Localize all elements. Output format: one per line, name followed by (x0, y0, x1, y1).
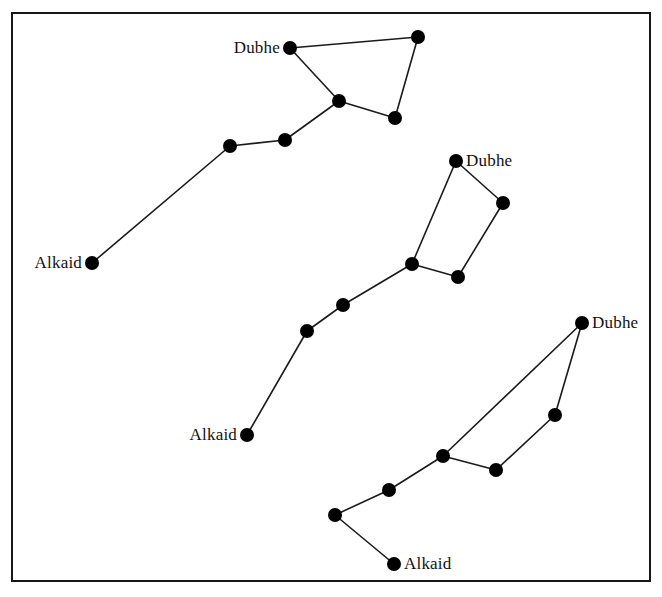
star-dot[interactable] (436, 449, 450, 463)
star-dot[interactable] (240, 428, 254, 442)
star-dot[interactable] (328, 508, 342, 522)
constellation-line (92, 146, 230, 263)
star-label-alkaid: Alkaid (35, 254, 82, 271)
star-dot[interactable] (278, 133, 292, 147)
star-dot[interactable] (575, 316, 589, 330)
star-dot[interactable] (382, 483, 396, 497)
constellation-line (285, 101, 339, 140)
constellation-line (290, 48, 339, 101)
star-dot[interactable] (451, 270, 465, 284)
star-dot[interactable] (223, 139, 237, 153)
constellation-line (458, 203, 503, 277)
star-label-dubhe: Dubhe (234, 39, 280, 56)
constellation-lines-layer (92, 37, 582, 564)
starfield-canvas (0, 0, 662, 597)
star-dot[interactable] (411, 30, 425, 44)
constellation-line (335, 490, 389, 515)
constellation-line (247, 331, 307, 435)
constellation-line (230, 140, 285, 146)
star-dot[interactable] (336, 298, 350, 312)
star-dot[interactable] (85, 256, 99, 270)
constellation-line (443, 323, 582, 456)
constellation-line (389, 456, 443, 490)
star-label-dubhe: Dubhe (466, 152, 512, 169)
constellation-line (412, 264, 458, 277)
constellation-line (335, 515, 394, 564)
star-dot[interactable] (496, 196, 510, 210)
constellation-line (412, 161, 456, 264)
star-dot[interactable] (405, 257, 419, 271)
star-dot[interactable] (449, 154, 463, 168)
star-dot[interactable] (388, 111, 402, 125)
star-dot[interactable] (300, 324, 314, 338)
star-dot[interactable] (387, 557, 401, 571)
constellation-line (290, 37, 418, 48)
constellation-line (339, 101, 395, 118)
constellation-line (496, 415, 555, 470)
star-label-alkaid: Alkaid (404, 555, 451, 572)
star-label-alkaid: Alkaid (190, 426, 237, 443)
star-dot[interactable] (332, 94, 346, 108)
constellation-line (343, 264, 412, 305)
constellation-line (395, 37, 418, 118)
star-dot[interactable] (548, 408, 562, 422)
star-label-dubhe: Dubhe (592, 314, 638, 331)
star-dot[interactable] (489, 463, 503, 477)
constellation-line (443, 456, 496, 470)
constellation-stars-layer (85, 30, 589, 571)
constellation-figure: DubheAlkaidDubheAlkaidDubheAlkaid (0, 0, 662, 597)
star-dot[interactable] (283, 41, 297, 55)
